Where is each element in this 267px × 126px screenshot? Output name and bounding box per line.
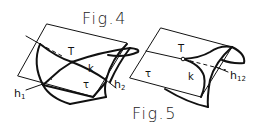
fig5-line-h12 [146,51,182,59]
fig5-surface-right-lobe [222,47,244,63]
fig4-label-k: k [88,63,94,74]
figure-5: T k τ h12 Fig.5 [130,28,246,123]
fig4-label-h1: h1 [14,87,25,101]
fig5-label-t: T [177,43,185,54]
fig4-bottom-outline [70,97,106,104]
fig4-line-h1-lower [26,84,43,90]
fig4-label-t: T [67,46,75,57]
fig4-point-t [70,60,73,63]
fig4-curve-t-to-left [43,62,72,85]
fig5-tangent-plane [130,28,232,97]
fig5-caption: Fig.5 [132,104,177,123]
fig5-surface-fold [208,47,232,107]
fig5-label-tau: τ [145,68,151,79]
fig4-label-h2: h2 [114,78,125,92]
fig5-point-t [181,57,185,61]
fig4-label-tau: τ [83,79,89,90]
fig5-label-h12: h12 [230,69,246,83]
figure-4: T k τ h1 h2 Fig.4 [14,9,138,104]
fig5-label-k: k [188,71,194,82]
fig4-caption: Fig.4 [82,9,127,28]
patent-diagram: T k τ h1 h2 Fig.4 T k τ h12 Fig.5 [0,0,267,126]
